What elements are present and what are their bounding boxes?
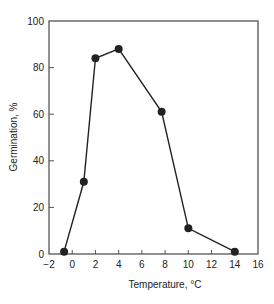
x-tick-label: 16 [252,259,264,270]
x-tick-label: 4 [116,259,122,270]
y-tick-label: 40 [33,155,45,166]
y-tick-label: 80 [33,62,45,73]
data-point [231,248,239,256]
x-tick-label: −2 [43,259,55,270]
x-axis-ticks: −20246810121416 [43,250,264,270]
x-tick-label: 12 [206,259,218,270]
data-point [60,248,68,256]
data-point [91,54,99,62]
data-point [80,178,88,186]
x-tick-label: 0 [69,259,75,270]
x-tick-label: 6 [139,259,145,270]
series-layer [60,45,239,256]
y-axis-ticks: 020406080100 [27,16,54,260]
y-tick-label: 60 [33,109,45,120]
y-tick-label: 100 [27,16,44,27]
data-point [184,224,192,232]
y-tick-label: 20 [33,202,45,213]
series-line [64,49,235,252]
plot-frame [49,21,258,254]
y-tick-label: 0 [38,249,44,260]
germination-chart: −20246810121416 020406080100 Temperature… [0,0,274,304]
data-point [115,45,123,53]
data-point [158,108,166,116]
x-axis-label: Temperature, °C [129,279,202,290]
x-tick-label: 8 [162,259,168,270]
x-tick-label: 14 [229,259,241,270]
x-tick-label: 10 [183,259,195,270]
x-tick-label: 2 [93,259,99,270]
y-axis-label: Germination, % [8,102,19,171]
